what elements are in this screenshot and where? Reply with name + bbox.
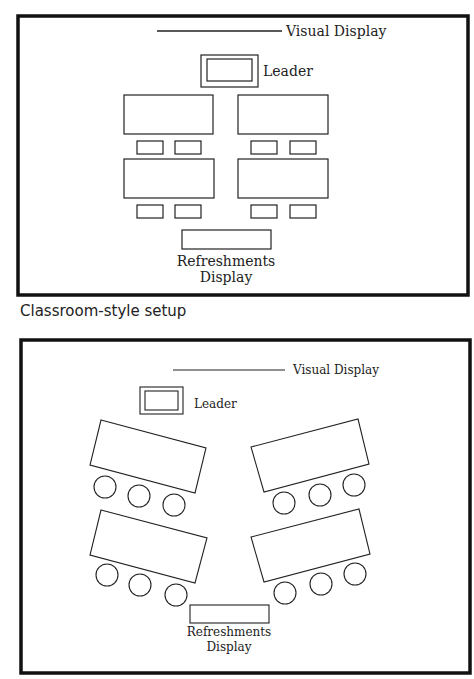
chair bbox=[344, 563, 366, 585]
classroom-diagram: Visual Display Leader Refreshments Displ… bbox=[18, 16, 468, 295]
chair bbox=[137, 205, 163, 218]
table bbox=[90, 510, 207, 583]
leader-podium-outer bbox=[201, 55, 258, 87]
chair bbox=[96, 564, 118, 586]
chair bbox=[175, 141, 201, 154]
refreshments-table bbox=[190, 605, 269, 623]
table bbox=[251, 419, 369, 492]
chair bbox=[251, 205, 277, 218]
chair bbox=[290, 205, 316, 218]
chair bbox=[309, 484, 331, 506]
leader-label: Leader bbox=[263, 63, 313, 79]
table bbox=[238, 159, 328, 198]
chair bbox=[274, 582, 296, 604]
angled-diagram: Visual Display Leader Refreshments Displ… bbox=[21, 340, 470, 673]
chair bbox=[273, 492, 295, 514]
leader-podium-inner bbox=[145, 391, 178, 410]
chair bbox=[137, 141, 163, 154]
room-setup-diagrams: Visual Display Leader Refreshments Displ… bbox=[0, 0, 474, 679]
chair bbox=[310, 573, 332, 595]
table bbox=[238, 95, 328, 134]
chair bbox=[290, 141, 316, 154]
refreshments-table bbox=[182, 230, 271, 249]
refreshments-label-line2: Display bbox=[200, 269, 253, 285]
chair bbox=[251, 141, 277, 154]
classroom-caption: Classroom-style setup bbox=[20, 302, 186, 320]
refreshments-label-line1: Refreshments bbox=[187, 625, 272, 639]
chair bbox=[165, 584, 187, 606]
refreshments-label-line1: Refreshments bbox=[177, 253, 276, 269]
chair bbox=[128, 485, 150, 507]
refreshments-label-line2: Display bbox=[206, 640, 251, 654]
chair bbox=[94, 476, 116, 498]
table bbox=[90, 420, 206, 493]
table bbox=[124, 95, 213, 134]
chair bbox=[129, 574, 151, 596]
visual-display-label: Visual Display bbox=[292, 363, 379, 377]
chair bbox=[163, 494, 185, 516]
leader-label: Leader bbox=[194, 397, 237, 411]
leader-podium-inner bbox=[207, 59, 252, 81]
table bbox=[124, 159, 214, 198]
chair bbox=[343, 474, 365, 496]
table bbox=[251, 509, 370, 582]
chair bbox=[175, 205, 201, 218]
visual-display-label: Visual Display bbox=[285, 23, 386, 39]
